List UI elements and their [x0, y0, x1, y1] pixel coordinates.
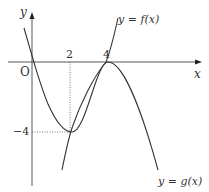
curve-f-label: y = f(x) [118, 14, 159, 25]
x-axis-label: x [194, 68, 201, 80]
y-axis-label: y [20, 6, 27, 18]
graph-canvas [0, 0, 209, 192]
curve-g-label: y = g(x) [158, 176, 202, 187]
curve-f [62, 18, 118, 170]
x-tick-2: 2 [66, 49, 73, 60]
curve-g [24, 28, 158, 170]
y-axis-arrow-icon [30, 12, 35, 19]
origin-label: O [20, 66, 30, 78]
function-graph-diagram: y x O 2 4 −4 y = f(x) y = g(x) [0, 0, 209, 192]
x-axis-arrow-icon [195, 60, 202, 65]
y-tick-minus-4: −4 [13, 126, 29, 137]
x-tick-4: 4 [103, 49, 110, 60]
